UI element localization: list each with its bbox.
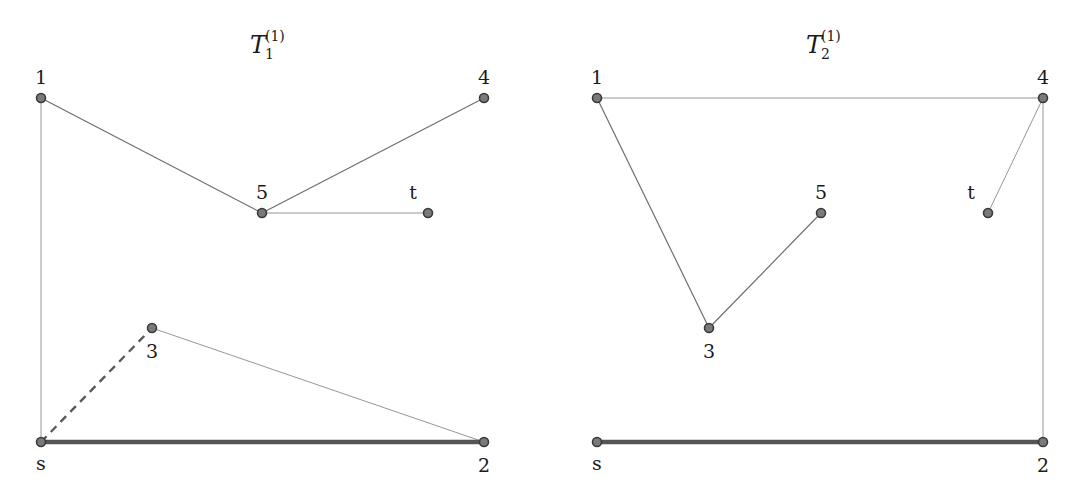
node-label-5: 5 xyxy=(256,181,268,203)
graph-title-superscript: (1) xyxy=(265,28,285,44)
edge-1-5 xyxy=(41,98,262,213)
node-label-s: s xyxy=(36,452,46,474)
node-label-t: t xyxy=(967,181,975,203)
node-t xyxy=(984,209,993,218)
graph-t1: 145t3s2T1(1) xyxy=(35,28,490,476)
node-3 xyxy=(148,324,157,333)
node-2 xyxy=(480,438,489,447)
graph-title-subscript: 1 xyxy=(265,46,274,62)
node-label-t: t xyxy=(409,181,417,203)
node-5 xyxy=(817,209,826,218)
graph-canvas: 145t3s2T1(1) 145t3s2T2(1) xyxy=(0,0,1079,501)
graph-title-subscript: 2 xyxy=(821,46,830,62)
node-label-2: 2 xyxy=(478,454,490,476)
edge-3-5 xyxy=(709,213,821,328)
edge-3-2 xyxy=(152,328,484,442)
node-label-1: 1 xyxy=(591,66,603,88)
edge-4-t xyxy=(988,98,1043,213)
node-3 xyxy=(705,324,714,333)
node-label-4: 4 xyxy=(478,66,490,88)
node-1 xyxy=(37,94,46,103)
node-label-s: s xyxy=(592,452,602,474)
edge-5-4 xyxy=(262,98,484,213)
edge-s-3 xyxy=(41,328,152,442)
node-label-1: 1 xyxy=(35,66,47,88)
node-s xyxy=(593,438,602,447)
graph-title-superscript: (1) xyxy=(821,28,841,44)
node-label-2: 2 xyxy=(1037,454,1049,476)
graph-t2: 145t3s2T2(1) xyxy=(591,28,1049,476)
node-4 xyxy=(1039,94,1048,103)
node-4 xyxy=(480,94,489,103)
node-2 xyxy=(1039,438,1048,447)
node-t xyxy=(424,209,433,218)
node-1 xyxy=(593,94,602,103)
node-label-4: 4 xyxy=(1037,66,1049,88)
node-label-3: 3 xyxy=(146,340,158,362)
node-s xyxy=(37,438,46,447)
node-label-5: 5 xyxy=(815,181,827,203)
node-5 xyxy=(258,209,267,218)
node-label-3: 3 xyxy=(703,340,715,362)
edge-1-3 xyxy=(597,98,709,328)
